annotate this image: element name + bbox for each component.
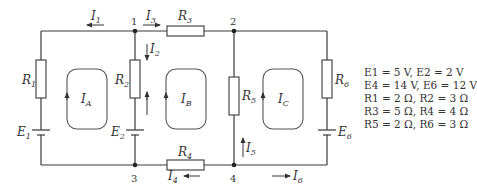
- node-1: [133, 29, 138, 34]
- label-IC: IC: [277, 92, 289, 108]
- label-I3: I3: [145, 9, 156, 25]
- label-R6: R6: [334, 73, 349, 89]
- resistor-R2: [130, 60, 140, 98]
- param-line: R3 = 5 Ω, R4 = 4 Ω: [364, 105, 477, 118]
- param-line: R1 = 2 Ω, R2 = 3 Ω: [364, 92, 477, 105]
- param-line: E1 = 5 V, E2 = 2 V: [364, 66, 477, 79]
- label-E6: E6: [337, 125, 352, 141]
- node-label-3: 3: [131, 173, 137, 184]
- resistor-R6: [322, 60, 332, 98]
- label-E2: E2: [110, 125, 125, 141]
- node-4: [232, 163, 237, 168]
- param-line: R5 = 2 Ω, R6 = 3 Ω: [364, 118, 477, 131]
- parameter-list: E1 = 5 V, E2 = 2 V E4 = 14 V, E6 = 12 V …: [364, 66, 477, 131]
- label-I5: I5: [245, 141, 256, 157]
- label-IB: IB: [180, 92, 192, 108]
- label-I2: I2: [149, 42, 160, 58]
- label-I4: I4: [167, 169, 178, 185]
- param-line: E4 = 14 V, E6 = 12 V: [364, 79, 477, 92]
- node-label-2: 2: [230, 16, 236, 27]
- resistor-R5: [229, 77, 239, 115]
- node-3: [133, 163, 138, 168]
- label-I1: I1: [90, 9, 101, 25]
- node-label-1: 1: [131, 16, 137, 27]
- label-R1: R1: [21, 73, 36, 89]
- label-R4: R4: [177, 145, 192, 161]
- node-label-4: 4: [230, 173, 236, 184]
- label-I6: I6: [292, 169, 303, 185]
- label-R5: R5: [241, 89, 256, 105]
- resistor-R1: [36, 60, 46, 98]
- label-R3: R3: [177, 9, 192, 25]
- label-E1: E1: [16, 125, 31, 141]
- label-IA: IA: [80, 92, 92, 108]
- node-2: [232, 29, 237, 34]
- label-R2: R2: [114, 73, 129, 89]
- resistor-R3: [167, 26, 204, 36]
